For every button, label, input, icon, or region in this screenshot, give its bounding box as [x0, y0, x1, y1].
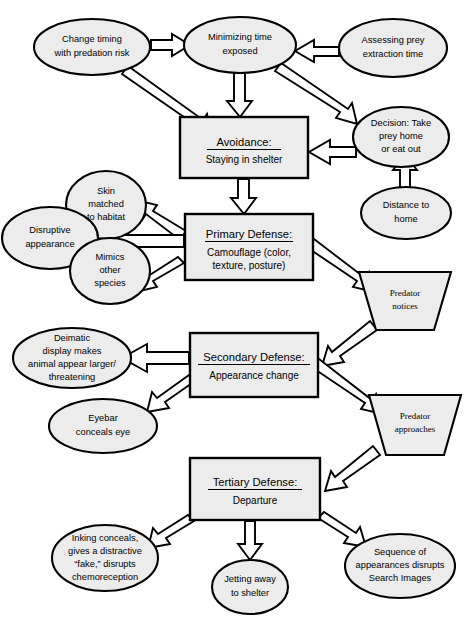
- node-label: Deimatic: [54, 333, 91, 343]
- node-avoidance[interactable]: Avoidance: Staying in shelter: [180, 117, 308, 178]
- node-deimatic-display[interactable]: Deimatic display makes animal appear lar…: [13, 328, 131, 388]
- box-title: Primary Defense:: [206, 228, 292, 240]
- node-label: to habitat: [87, 212, 126, 222]
- node-label: Search Images: [369, 573, 432, 583]
- node-label: Disruptive: [29, 225, 70, 235]
- node-label: appearances disrupts: [356, 560, 445, 570]
- node-label: Minimizing time: [208, 32, 272, 42]
- arrow-avoidance-to-primary: [231, 179, 256, 214]
- node-label: display makes: [43, 346, 102, 356]
- node-change-timing[interactable]: Change timing with predation risk: [34, 19, 150, 75]
- arrow-predator-notices-to-secondary: [322, 321, 377, 366]
- arrow-minimizing-to-avoidance: [227, 73, 252, 117]
- node-label: Change timing: [62, 34, 122, 44]
- trapezoid-layer: Predator notices Predator approaches: [359, 272, 461, 455]
- node-predator-notices[interactable]: Predator notices: [359, 272, 451, 330]
- box-subtitle: Appearance change: [209, 370, 299, 381]
- node-assessing-prey[interactable]: Assessing prey extraction time: [339, 19, 447, 77]
- node-label: threatening: [49, 372, 96, 382]
- box-subtitle: Staying in shelter: [206, 154, 283, 165]
- node-label: Decision: Take: [371, 118, 431, 128]
- box-title: Avoidance:: [216, 136, 271, 148]
- arrow-tertiary-to-inking: [148, 515, 194, 548]
- node-label: Eyebar: [88, 413, 117, 423]
- arrow-assessing-to-minimizing: [295, 40, 339, 62]
- node-label: Inking conceals,: [72, 533, 139, 543]
- node-label: home: [394, 214, 417, 224]
- node-tertiary-defense[interactable]: Tertiary Defense: Departure: [190, 458, 320, 520]
- box-title: Tertiary Defense:: [213, 476, 298, 488]
- node-mimics-other-species[interactable]: Mimics other species: [70, 238, 150, 304]
- node-label: Sequence of: [374, 547, 427, 557]
- node-label: Predator: [400, 411, 431, 421]
- node-primary-defense[interactable]: Primary Defense: Camouflage (color, text…: [185, 214, 313, 280]
- node-label: Mimics: [96, 252, 125, 262]
- node-label: Assessing prey: [361, 35, 424, 45]
- node-distance-to-home[interactable]: Distance to home: [361, 187, 451, 239]
- box-subtitle: texture, posture): [213, 260, 286, 271]
- node-label: “fake,” disrupts: [74, 559, 136, 569]
- node-minimizing-time[interactable]: Minimizing time exposed: [184, 17, 296, 73]
- node-label: or eat out: [381, 144, 421, 154]
- diagram-canvas: Change timing with predation risk Minimi…: [0, 0, 472, 627]
- node-label: Predator: [390, 288, 421, 298]
- node-sequence-of-appearances[interactable]: Sequence of appearances disrupts Search …: [345, 534, 455, 598]
- box-layer: Avoidance: Staying in shelter Primary De…: [180, 117, 320, 520]
- node-label: with predation risk: [54, 48, 130, 58]
- arrow-decision-to-avoidance: [309, 140, 356, 164]
- node-label: animal appear larger/: [28, 359, 116, 369]
- node-inking-conceals[interactable]: Inking conceals, gives a distractive “fa…: [52, 525, 158, 591]
- node-label: species: [94, 278, 126, 288]
- node-label: chemoreception: [72, 572, 138, 582]
- node-label: appearance: [25, 239, 74, 249]
- arrow-secondary-to-eyebar: [147, 375, 195, 412]
- node-label: gives a distractive: [68, 546, 142, 556]
- arrow-tertiary-to-sequence: [318, 512, 366, 547]
- box-subtitle: Camouflage (color,: [207, 247, 291, 258]
- node-label: other: [99, 265, 120, 275]
- node-predator-approaches[interactable]: Predator approaches: [369, 395, 461, 455]
- node-label: notices: [392, 301, 418, 311]
- flow-diagram: Change timing with predation risk Minimi…: [0, 0, 472, 627]
- node-label: matched: [88, 199, 124, 209]
- node-decision-take-prey[interactable]: Decision: Take prey home or eat out: [353, 107, 449, 167]
- node-label: extraction time: [363, 49, 423, 59]
- node-eyebar-conceals-eye[interactable]: Eyebar conceals eye: [49, 399, 157, 453]
- box-title: Secondary Defense:: [203, 351, 304, 363]
- node-secondary-defense[interactable]: Secondary Defense: Appearance change: [190, 333, 318, 397]
- node-label: to shelter: [231, 588, 269, 598]
- arrow-tertiary-to-jetting: [238, 521, 262, 560]
- node-label: Skin: [97, 186, 115, 196]
- node-label: conceals eye: [76, 427, 130, 437]
- arrow-minimizing-to-decision: [275, 63, 357, 124]
- node-label: Jetting away: [224, 574, 276, 584]
- node-label: Distance to: [383, 200, 430, 210]
- box-subtitle: Departure: [233, 495, 278, 506]
- arrow-predator-approaches-to-tertiary: [325, 446, 380, 491]
- node-label: exposed: [222, 46, 257, 56]
- node-label: prey home: [379, 131, 423, 141]
- node-label: approaches: [395, 424, 436, 434]
- node-jetting-away[interactable]: Jetting away to shelter: [212, 560, 288, 614]
